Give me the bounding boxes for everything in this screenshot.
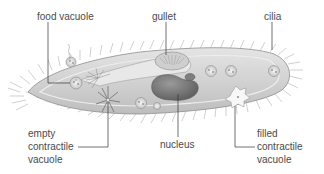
label-gullet: gullet — [152, 10, 176, 23]
filled-vacuole-dot — [237, 96, 239, 98]
label-empty-line-1: empty — [28, 127, 74, 140]
label-food-vacuole: food vacuole — [37, 10, 94, 23]
label-empty-contractile-vacuole: empty contractile vacuole — [28, 127, 74, 166]
label-empty-line-2: contractile — [28, 140, 74, 153]
empty-vacuole-center — [107, 99, 110, 102]
label-filled-line-2: contractile — [257, 140, 303, 153]
label-empty-line-3: vacuole — [28, 153, 74, 166]
label-cilia: cilia — [264, 10, 281, 23]
label-filled-line-1: filled — [257, 127, 303, 140]
leader-filled-contractile-vacuole — [235, 106, 255, 147]
label-nucleus: nucleus — [160, 138, 194, 151]
micronucleus — [185, 74, 195, 81]
label-filled-line-3: vacuole — [257, 153, 303, 166]
label-filled-contractile-vacuole: filled contractile vacuole — [257, 127, 303, 166]
